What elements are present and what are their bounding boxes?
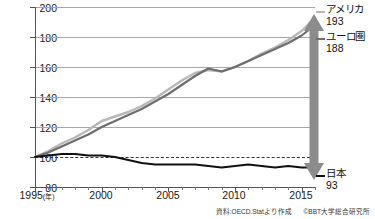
x-tick-label-2015: 2015: [278, 190, 324, 202]
series-value-japan: 93: [326, 180, 346, 192]
series-value-america: 193: [326, 16, 364, 28]
x-tick-minor: [195, 187, 196, 190]
series-label-eurozone: ユーロ圏 188: [326, 31, 365, 55]
plot-area: [35, 7, 315, 187]
series-lines: [35, 7, 315, 187]
series-tick-eurozone: [316, 38, 325, 40]
x-axis-unit: (年): [43, 193, 55, 200]
x-tick-text: 1995: [19, 189, 42, 201]
series-label-america: アメリカ 193: [326, 4, 364, 28]
x-tick-minor: [262, 187, 263, 190]
x-tick-minor: [208, 187, 209, 190]
x-tick-label-2005: 2005: [145, 190, 191, 202]
x-tick-minor: [62, 187, 63, 190]
series-label-japan: 日本 93: [326, 168, 346, 192]
x-axis: [35, 187, 315, 188]
series-value-eurozone: 188: [326, 43, 365, 55]
x-tick-label-2000: 2000: [78, 190, 124, 202]
x-tick-minor: [142, 187, 143, 190]
x-tick-label-1995: 1995(年): [14, 190, 60, 202]
x-tick-minor: [128, 187, 129, 190]
series-name-japan: 日本: [326, 168, 346, 180]
x-tick-label-2010: 2010: [211, 190, 257, 202]
source-note: 資料:OECD.Statより作成: [216, 208, 292, 215]
x-tick-minor: [75, 187, 76, 190]
copyright-note: ©BBT大学総合研究所: [304, 208, 370, 215]
series-name-eurozone: ユーロ圏: [326, 31, 365, 43]
series-tick-america: [316, 11, 325, 13]
chart-root: 200 180 160 140 120 100 80 199: [0, 0, 375, 219]
chart-footer: 資料:OECD.Statより作成 ©BBT大学総合研究所: [0, 206, 375, 216]
x-tick-minor: [275, 187, 276, 190]
series-tick-japan: [316, 175, 325, 177]
series-name-america: アメリカ: [326, 4, 364, 16]
